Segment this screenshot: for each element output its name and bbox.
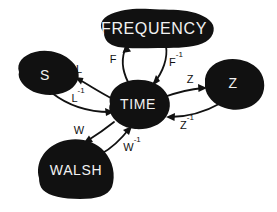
node-z[interactable]: Z	[205, 59, 264, 110]
edge-w-inverse-sup: -1	[134, 135, 142, 144]
node-frequency[interactable]: FREQUENCY	[101, 9, 214, 49]
edge-l-inverse-path	[52, 93, 110, 112]
edge-f-inverse-sup: -1	[176, 50, 184, 59]
node-time[interactable]: TIME	[109, 80, 170, 129]
edge-z-inverse-sup: -1	[187, 113, 195, 122]
edge-w-label: W	[74, 124, 85, 136]
node-walsh-label: WALSH	[50, 162, 102, 178]
edge-f-label: F	[110, 53, 117, 65]
edge-f: F	[110, 44, 131, 82]
edge-l-inverse-label: L-1	[71, 86, 85, 104]
edge-z-inverse: Z-1	[166, 103, 221, 131]
edge-w-inverse-base: W	[123, 141, 134, 153]
edge-z-base: Z	[187, 73, 194, 85]
diagram-canvas: F F-1 L L-1	[0, 0, 277, 212]
edge-f-base: F	[110, 53, 117, 65]
node-s[interactable]: S	[18, 51, 78, 95]
edge-w-base: W	[74, 124, 85, 136]
transform-relations-diagram: F F-1 L L-1	[0, 0, 277, 212]
node-walsh[interactable]: WALSH	[38, 139, 114, 199]
node-s-label: S	[40, 67, 50, 83]
edge-l-inverse-sup: -1	[78, 86, 86, 95]
edge-z: Z	[161, 73, 207, 98]
edge-f-inverse: F-1	[152, 46, 183, 86]
edge-z-inverse-path	[170, 103, 221, 117]
edge-w-inverse: W-1	[101, 126, 141, 154]
node-time-label: TIME	[120, 96, 156, 112]
edge-z-label: Z	[187, 73, 194, 85]
node-frequency-label: FREQUENCY	[101, 20, 207, 37]
node-z-label: Z	[228, 75, 237, 91]
edge-f-inverse-label: F-1	[169, 50, 183, 68]
edge-w-inverse-label: W-1	[123, 135, 141, 153]
edge-w-path	[87, 122, 114, 141]
